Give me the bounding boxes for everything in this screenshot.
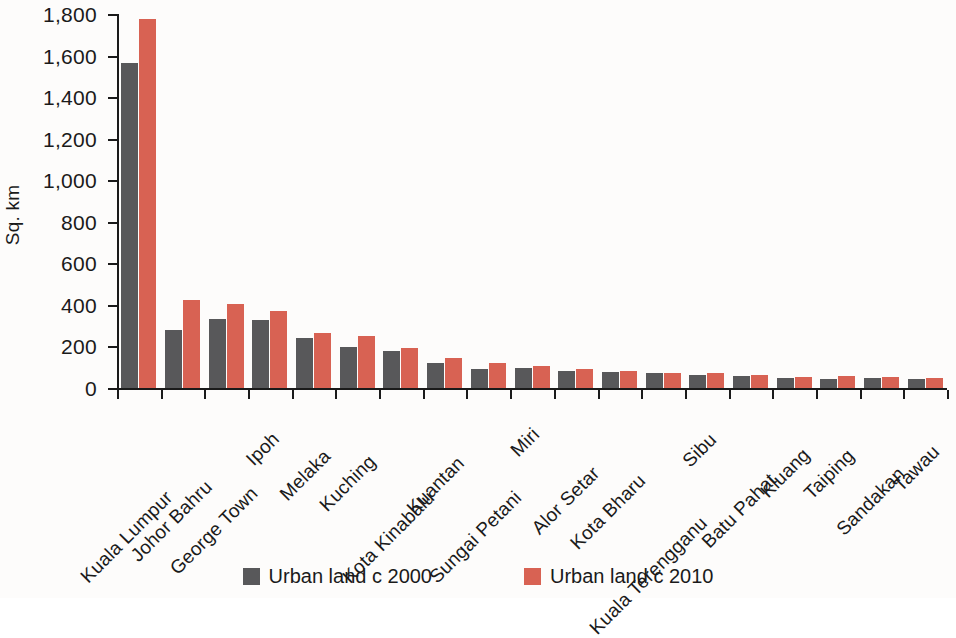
bar-group	[558, 14, 593, 388]
bar	[515, 368, 532, 388]
bar-group	[165, 14, 200, 388]
bar	[358, 336, 375, 388]
bar	[227, 304, 244, 388]
x-axis-tick	[554, 390, 556, 399]
bar	[908, 379, 925, 388]
x-axis-tick	[947, 390, 949, 399]
y-axis-tick-label: 1,000	[7, 170, 97, 191]
chart-legend: Urban land c 2000Urban land c 2010	[0, 566, 956, 586]
bar-group	[646, 14, 681, 388]
bar-group	[602, 14, 637, 388]
legend-item: Urban land c 2000	[243, 566, 432, 586]
bar	[707, 373, 724, 388]
bar	[183, 300, 200, 388]
bar-group	[427, 14, 462, 388]
bar	[777, 378, 794, 388]
bar-group	[471, 14, 506, 388]
x-axis-tick	[292, 390, 294, 399]
bar	[733, 376, 750, 388]
bar	[165, 330, 182, 388]
x-axis-tick-label: Kuantan	[403, 453, 468, 518]
bar	[795, 377, 812, 388]
bar	[864, 378, 881, 388]
bar	[427, 363, 444, 388]
bar-group	[733, 14, 768, 388]
bar-group	[340, 14, 375, 388]
bar	[533, 366, 550, 388]
bar	[664, 373, 681, 388]
y-axis-tick-label: 400	[7, 295, 97, 316]
x-axis-tick	[248, 390, 250, 399]
bar	[489, 363, 506, 388]
x-axis-tick	[466, 390, 468, 399]
bar	[751, 375, 768, 388]
y-axis-tick	[108, 97, 117, 99]
bar-group	[689, 14, 724, 388]
bar-group	[515, 14, 550, 388]
x-axis-tick	[117, 390, 119, 399]
bar	[314, 333, 331, 388]
x-axis-tick	[335, 390, 337, 399]
legend-label: Urban land c 2000	[269, 566, 432, 586]
y-axis-tick	[108, 388, 117, 390]
x-axis-tick	[510, 390, 512, 399]
y-axis-tick-label: 1,600	[7, 46, 97, 67]
legend-item: Urban land c 2010	[524, 566, 713, 586]
bar	[401, 348, 418, 388]
x-axis-tick	[816, 390, 818, 399]
y-axis-line	[117, 14, 119, 390]
bar	[820, 379, 837, 388]
bar	[296, 338, 313, 388]
x-axis-tick	[772, 390, 774, 399]
legend-swatch-icon	[243, 568, 260, 585]
bar	[383, 351, 400, 388]
bar-group	[383, 14, 418, 388]
x-axis-tick	[379, 390, 381, 399]
y-axis-tick	[108, 180, 117, 182]
x-axis-tick-label: Ipoh	[242, 429, 283, 470]
x-axis-tick	[729, 390, 731, 399]
x-axis-tick	[860, 390, 862, 399]
x-axis-tick	[598, 390, 600, 399]
x-axis-tick-label: Sibu	[679, 429, 721, 471]
bar	[340, 347, 357, 388]
y-axis-tick	[108, 346, 117, 348]
bar-group	[864, 14, 899, 388]
y-axis-tick-label: 200	[7, 336, 97, 357]
x-axis-tick	[903, 390, 905, 399]
bar	[209, 319, 226, 388]
y-axis-tick-label: 1,800	[7, 4, 97, 25]
bar-group	[777, 14, 812, 388]
x-axis-tick	[161, 390, 163, 399]
bar	[252, 320, 269, 388]
legend-label: Urban land c 2010	[550, 566, 713, 586]
bar-group	[820, 14, 855, 388]
bar	[882, 377, 899, 388]
y-axis-tick	[108, 263, 117, 265]
y-axis-tick-label: 800	[7, 212, 97, 233]
y-axis-tick	[108, 222, 117, 224]
y-axis-tick-label: 600	[7, 253, 97, 274]
plot-area: 02004006008001,0001,2001,4001,6001,800	[117, 14, 947, 390]
bar	[646, 373, 663, 388]
y-axis-tick	[108, 305, 117, 307]
bar	[838, 376, 855, 388]
x-axis-tick	[423, 390, 425, 399]
y-axis-tick	[108, 14, 117, 16]
bar	[121, 63, 138, 388]
bar	[926, 378, 943, 388]
bar-group	[252, 14, 287, 388]
bar-group	[296, 14, 331, 388]
y-axis-tick-label: 1,400	[7, 87, 97, 108]
bar	[558, 371, 575, 388]
bar	[689, 375, 706, 388]
y-axis-tick	[108, 139, 117, 141]
y-axis-tick-label: 0	[7, 378, 97, 399]
x-axis-tick	[641, 390, 643, 399]
bar	[139, 19, 156, 388]
x-axis-line	[117, 388, 947, 390]
bar	[602, 372, 619, 388]
bar	[620, 371, 637, 388]
x-axis-tick	[204, 390, 206, 399]
